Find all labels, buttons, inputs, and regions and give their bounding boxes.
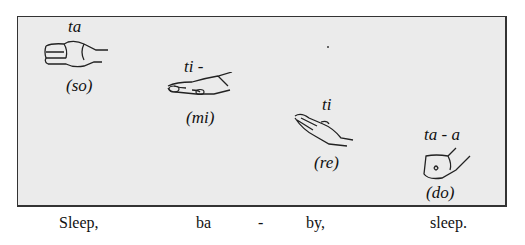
hand-sign-re-icon [293, 112, 355, 152]
lyric-word-4: sleep. [430, 214, 467, 232]
solfege-label-3: (re) [314, 153, 339, 173]
lyric-word-3: by, [306, 214, 325, 232]
solfege-label-1: (so) [66, 76, 92, 96]
rhythm-syllable-1: ta [68, 17, 81, 37]
lyric-word-1: Sleep, [59, 214, 99, 232]
hand-sign-so-icon [44, 38, 110, 76]
hand-sign-mi-icon [166, 72, 234, 102]
lyric-word-2: ba [196, 214, 211, 232]
solfege-label-2: (mi) [186, 108, 214, 128]
stray-mark [327, 46, 329, 48]
rhythm-syllable-4: ta - a [424, 125, 460, 145]
hand-sign-do-icon [422, 146, 472, 186]
solfege-label-4: (do) [426, 183, 454, 203]
lyric-hyphen: - [258, 214, 263, 232]
